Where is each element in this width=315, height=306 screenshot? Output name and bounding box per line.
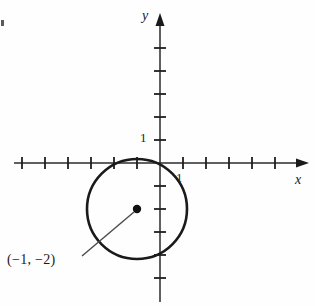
- x-axis-tick-label-1: 1: [176, 170, 183, 186]
- center-point-marker: [133, 205, 141, 213]
- y-axis-label: y: [142, 8, 148, 24]
- center-point-coordinate-label: (−1, −2): [7, 252, 56, 268]
- y-axis-tick-label-1: 1: [140, 130, 147, 146]
- y-axis-arrowhead: [156, 13, 165, 26]
- x-axis-arrowhead: [296, 159, 309, 168]
- x-axis-label: x: [295, 172, 301, 188]
- coordinate-plane-figure: y x 1 1 (−1, −2): [0, 0, 315, 306]
